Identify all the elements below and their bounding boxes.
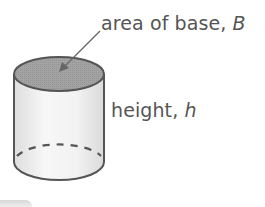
height-variable: h: [184, 99, 196, 121]
area-of-base-label: area of base, B: [101, 14, 246, 33]
area-of-base-ellipse: [14, 57, 104, 91]
height-label: height, h: [111, 101, 197, 120]
base-variable: B: [233, 12, 246, 34]
cylinder-figure: area of base, B height, h: [0, 0, 265, 207]
area-of-base-text: area of base,: [101, 12, 233, 34]
height-text: height,: [111, 99, 184, 121]
corner-decoration: [0, 200, 32, 207]
